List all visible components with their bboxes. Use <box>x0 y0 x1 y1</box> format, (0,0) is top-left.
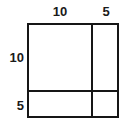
horizontal-partition-line <box>27 90 119 92</box>
side-label-top-row: 10 <box>2 51 24 64</box>
outer-rectangle <box>27 23 119 118</box>
vertical-partition-line <box>91 23 93 118</box>
top-label-right-column: 5 <box>93 5 119 18</box>
area-model-figure: 10 5 10 5 <box>0 0 130 124</box>
top-label-left-column: 10 <box>47 5 73 18</box>
side-label-bottom-row: 5 <box>2 99 24 112</box>
